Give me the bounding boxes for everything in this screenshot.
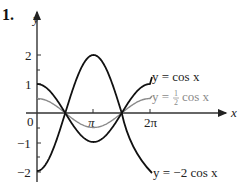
y-tick-neg2: −2 — [17, 165, 31, 180]
svg-text:1: 1 — [174, 89, 178, 98]
half-cos-label: y = 1 2 cos x — [152, 89, 210, 107]
origin-label: 0 — [27, 114, 34, 129]
x-axis-label: x — [230, 105, 237, 120]
y-axis-label: y — [31, 11, 39, 26]
neg2-cos-curve — [37, 55, 152, 173]
cos-label: y = cos x — [152, 69, 200, 84]
x-tick-2pi: 2π — [144, 115, 158, 130]
svg-text:2: 2 — [174, 98, 178, 107]
y-tick-1: 1 — [25, 77, 32, 92]
cosine-graph: 1. y x 2 1 0 −1 −2 π 2π y = cos x y = 1 … — [0, 0, 247, 192]
problem-number: 1. — [2, 6, 14, 23]
svg-text:y =: y = — [152, 89, 169, 104]
y-tick-2: 2 — [25, 48, 32, 63]
y-tick-neg1: −1 — [17, 136, 31, 151]
neg2-cos-label: y = −2 cos x — [153, 165, 218, 180]
cos-curve — [37, 77, 152, 142]
svg-text:cos x: cos x — [182, 89, 210, 104]
